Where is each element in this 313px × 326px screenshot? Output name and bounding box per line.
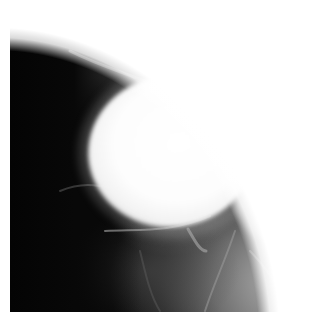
- xray-image: [10, 11, 302, 312]
- image-canvas: [0, 0, 313, 326]
- skin-edge-background: [10, 11, 302, 312]
